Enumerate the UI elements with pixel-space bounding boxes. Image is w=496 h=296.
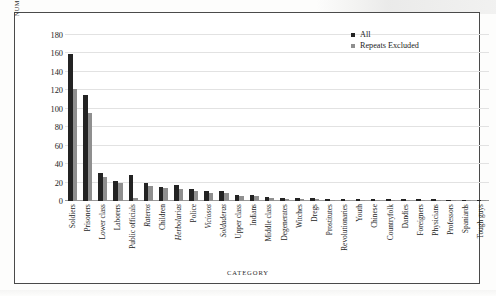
bar-group: [216, 35, 231, 201]
y-tick-label-0: 0: [59, 197, 63, 206]
bar-group: [126, 35, 141, 201]
y-tick-label-20: 20: [55, 178, 63, 187]
bar-group: [232, 35, 247, 201]
bar-group: [110, 35, 125, 201]
x-tick-label: Chinese: [372, 204, 379, 228]
x-tick-cell: Dandies: [398, 203, 413, 275]
bar-repeats-excluded: [163, 188, 168, 201]
x-tick-cell: Laborers: [110, 203, 125, 275]
chart-legend: All Repeats Excluded: [351, 29, 419, 51]
bar-repeats-excluded: [88, 113, 93, 201]
x-axis-title: CATEGORY: [15, 269, 481, 276]
bar-repeats-excluded: [148, 186, 153, 201]
x-tick-label: Countryfolk: [387, 204, 394, 240]
x-tick-label: Physicians: [432, 204, 439, 236]
plot-area: [65, 35, 489, 201]
bar-group: [247, 35, 262, 201]
y-axis-title: NUMBER OF REFERENCES: [13, 0, 20, 47]
bar-group: [141, 35, 156, 201]
x-tick-label: Dregs: [311, 204, 318, 222]
x-tick-cell: Revolutionaries: [338, 203, 353, 275]
y-tick-label-80: 80: [55, 123, 63, 132]
bar-repeats-excluded: [269, 198, 274, 201]
bar-repeats-excluded: [391, 200, 396, 201]
x-tick-label: Lower class: [99, 204, 106, 240]
x-tick-label: Soldaderas: [220, 204, 227, 237]
bar-group: [95, 35, 110, 201]
bar-repeats-excluded: [103, 177, 108, 201]
bar-repeats-excluded: [330, 200, 335, 201]
bar-repeats-excluded: [315, 199, 320, 201]
x-tick-label: Witches: [296, 204, 303, 228]
legend-item-all: All: [351, 29, 419, 40]
bar-repeats-excluded: [224, 193, 229, 201]
x-tick-cell: Soldiers: [65, 203, 80, 275]
bar-repeats-excluded: [300, 199, 305, 201]
bar-group: [262, 35, 277, 201]
x-tick-cell: Indians: [247, 203, 262, 275]
x-tick-label: Youth: [357, 204, 364, 222]
legend-label-repeats-excluded: Repeats Excluded: [360, 41, 419, 50]
legend-swatch-all-icon: [351, 33, 355, 37]
x-tick-cell: Viciosos: [201, 203, 216, 275]
x-tick-cell: Police: [186, 203, 201, 275]
x-tick-cell: Middle class: [262, 203, 277, 275]
y-tick-label-140: 140: [50, 67, 63, 76]
x-tick-cell: Chinese: [368, 203, 383, 275]
x-tick-cell: Rateros: [141, 203, 156, 275]
bar-group: [171, 35, 186, 201]
bar-group: [292, 35, 307, 201]
y-tick-label-160: 160: [50, 49, 63, 58]
bar-group: [307, 35, 322, 201]
y-tick-label-60: 60: [55, 141, 63, 150]
bar-group: [413, 35, 428, 201]
x-tick-label: Prisoners: [84, 204, 91, 232]
bar-repeats-excluded: [406, 200, 411, 201]
x-tick-label: Revolutionaries: [341, 204, 348, 251]
x-tick-label: Middle class: [266, 204, 273, 242]
bar-group: [368, 35, 383, 201]
legend-item-repeats-excluded: Repeats Excluded: [351, 40, 419, 51]
x-tick-cell: Prostitutes: [322, 203, 337, 275]
x-tick-label: Prostitutes: [326, 204, 333, 235]
x-tick-cell: Public officials: [126, 203, 141, 275]
x-tick-label: Dandies: [402, 204, 409, 228]
bar-repeats-excluded: [73, 89, 78, 201]
bar-repeats-excluded: [375, 200, 380, 201]
x-tick-cell: Countryfolk: [383, 203, 398, 275]
x-tick-cell: Foreigners: [413, 203, 428, 275]
bar-group: [474, 35, 489, 201]
x-tick-cell: Professors: [444, 203, 459, 275]
chart-frame: NUMBER OF REFERENCES 0204060801001201401…: [14, 12, 480, 284]
x-tick-label: Public officials: [129, 204, 136, 249]
chart-screenshot: NUMBER OF REFERENCES 0204060801001201401…: [0, 0, 496, 296]
x-tick-cell: Children: [156, 203, 171, 275]
x-tick-label: Herbolarias: [175, 204, 182, 240]
bar-groups: [65, 35, 489, 201]
x-tick-label: Indians: [251, 204, 258, 226]
y-tick-label-120: 120: [50, 86, 63, 95]
x-tick-cell: Tough guys: [474, 203, 489, 275]
x-tick-cell: Soldaderas: [216, 203, 231, 275]
bar-all: [129, 175, 134, 201]
x-tick-cell: Prisoners: [80, 203, 95, 275]
bar-repeats-excluded: [239, 196, 244, 201]
bar-group: [65, 35, 80, 201]
bar-repeats-excluded: [345, 200, 350, 201]
x-axis-tick-labels: SoldiersPrisonersLower classLaborersPubl…: [65, 203, 489, 275]
x-tick-cell: Dregs: [307, 203, 322, 275]
bar-repeats-excluded: [481, 200, 486, 201]
y-tick-label-40: 40: [55, 160, 63, 169]
bar-repeats-excluded: [436, 200, 441, 201]
bar-repeats-excluded: [194, 191, 199, 201]
x-tick-label: Police: [190, 204, 197, 222]
bar-group: [186, 35, 201, 201]
scan-artifact-bottom: [0, 290, 496, 296]
bar-repeats-excluded: [360, 200, 365, 201]
x-tick-label: Soldiers: [69, 204, 76, 228]
x-tick-cell: Physicians: [428, 203, 443, 275]
bar-repeats-excluded: [118, 183, 123, 201]
x-tick-label: Children: [160, 204, 167, 230]
x-tick-cell: Lower class: [95, 203, 110, 275]
x-tick-label: Spaniards: [463, 204, 470, 233]
